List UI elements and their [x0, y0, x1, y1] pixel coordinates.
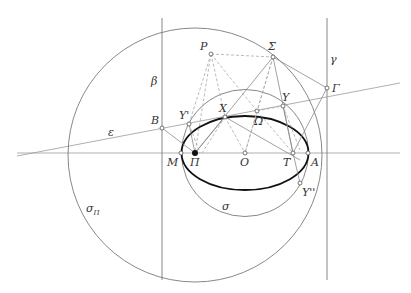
point-x — [223, 115, 227, 119]
line-b-pi — [162, 128, 195, 153]
label-m: M — [166, 156, 179, 169]
line-t-upsilon-double — [293, 153, 300, 183]
label-upsilon: Υ — [282, 91, 291, 104]
point-a — [306, 151, 310, 155]
label-sigma: Σ — [267, 40, 276, 53]
line-upsilon-t — [283, 106, 293, 153]
dash-p-omega — [211, 54, 257, 111]
dash-sigma-o — [245, 57, 273, 153]
label-b: B — [150, 114, 159, 127]
dash-omega-upsilon — [257, 106, 283, 111]
line-epsilon — [17, 83, 400, 156]
label-a: A — [310, 156, 319, 169]
label-upsilon-prime: Υ' — [179, 109, 189, 122]
label-beta: β — [150, 75, 157, 88]
label-epsilon: ε — [108, 126, 114, 139]
point-m — [179, 151, 183, 155]
label-omega: Ω — [253, 115, 263, 128]
point-omega — [255, 109, 259, 113]
label-t: T — [283, 156, 292, 169]
label-sigma-circle: σ — [222, 200, 230, 213]
point-o — [243, 151, 247, 155]
dash-p-pi — [195, 54, 211, 153]
label-o: O — [240, 156, 249, 169]
point-gamma — [325, 86, 329, 90]
point-upsilon-prime — [187, 122, 191, 126]
label-gamma-point: Γ — [331, 82, 340, 95]
point-p — [209, 52, 213, 56]
point-upsilon-double — [298, 181, 302, 185]
point-upsilon — [281, 104, 285, 108]
point-t — [291, 151, 295, 155]
label-sigma-pi-sub: Π — [93, 209, 101, 217]
point-sigma — [271, 55, 275, 59]
dash-p-upsilon-prime — [189, 54, 211, 124]
label-pi: Π — [189, 156, 200, 169]
dash-x-pi — [202, 117, 225, 153]
geometry-diagram: P Σ γ β Γ Υ Υ' X Ω B ε M Π O T A Υ'' σ σ… — [0, 0, 411, 293]
label-x: X — [218, 102, 228, 115]
label-sigma-pi-circle: σΠ — [86, 202, 101, 217]
label-gamma-line: γ — [330, 53, 337, 66]
point-b — [160, 126, 164, 130]
label-p: P — [199, 40, 208, 53]
label-upsilon-double: Υ'' — [302, 186, 315, 199]
dash-p-sigma — [211, 54, 273, 57]
